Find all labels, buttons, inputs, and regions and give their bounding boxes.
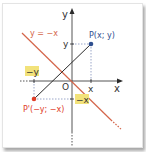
point-p-dot	[89, 42, 94, 47]
point-p-label: P(x; y)	[89, 31, 115, 40]
neg-x-tick-label: −x	[76, 95, 90, 105]
y-axis-label: y	[62, 9, 68, 20]
neg-y-tick-label: −y	[26, 67, 40, 77]
origin-label: O	[62, 82, 69, 92]
point-pprime-dot	[32, 97, 37, 102]
line-label: y = −x	[30, 29, 58, 38]
y-tick-label: y	[63, 39, 69, 49]
x-tick-label: x	[88, 84, 94, 94]
coordinate-diagram: y x O y = −x P(x; y) y x −y −x P'(−y; −x…	[0, 0, 146, 152]
x-axis-label: x	[114, 83, 120, 94]
line-y-equals-neg-x-dashed-end	[111, 120, 122, 130]
point-pprime-label: P'(−y; −x)	[23, 105, 64, 114]
y-axis-arrow-icon	[70, 8, 75, 14]
